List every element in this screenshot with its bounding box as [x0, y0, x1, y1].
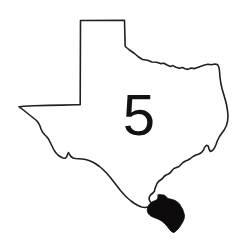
map-figure: 5 — [0, 0, 248, 247]
highlighted-region-path — [147, 195, 184, 233]
texas-map-svg: 5 — [0, 0, 248, 247]
map-number-label: 5 — [123, 82, 155, 147]
